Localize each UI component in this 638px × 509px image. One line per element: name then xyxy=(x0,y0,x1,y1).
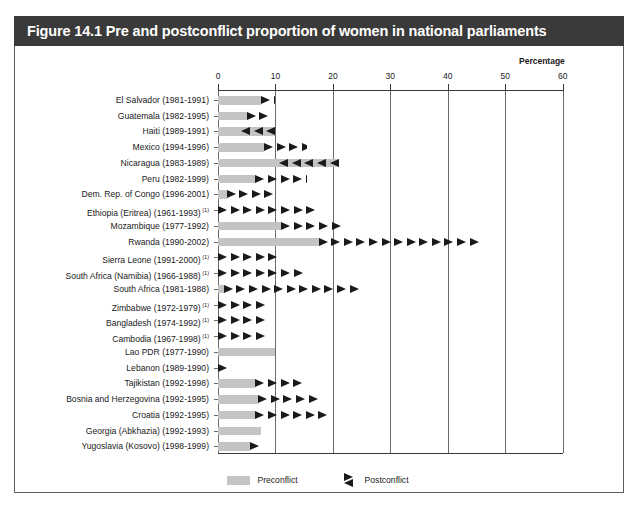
arrow-right-icon xyxy=(243,332,252,340)
arrow-right-icon xyxy=(382,238,391,246)
arrow-right-icon xyxy=(306,222,315,230)
preconflict-bar xyxy=(218,348,275,357)
arrow-right-icon xyxy=(283,395,292,403)
arrow-right-icon xyxy=(268,411,277,419)
arrow-right-icon xyxy=(356,238,365,246)
arrow-right-icon xyxy=(262,285,271,293)
arrow-right-icon xyxy=(407,238,416,246)
arrow-left-icon xyxy=(344,479,353,487)
row-label: Yugoslavia (Kosovo) (1998-1999) xyxy=(81,437,209,456)
arrow-right-icon xyxy=(306,206,315,214)
arrow-right-icon xyxy=(218,332,227,340)
footnote-marker: (1) xyxy=(201,270,209,276)
arrow-right-icon xyxy=(470,238,479,246)
arrow-right-icon xyxy=(312,285,321,293)
footnote-marker: (1) xyxy=(201,254,209,260)
arrow-right-icon xyxy=(457,238,466,246)
axis-unit-label: Percentage xyxy=(519,56,565,66)
arrow-right-icon xyxy=(337,285,346,293)
x-axis-tick xyxy=(505,84,506,91)
arrow-left-icon xyxy=(304,159,313,167)
postconflict-arrow-series xyxy=(264,142,307,152)
legend-item-postconflict: Postconflict xyxy=(344,473,409,487)
arrow-right-icon xyxy=(250,442,259,450)
arrow-right-icon xyxy=(318,411,327,419)
arrow-right-icon xyxy=(344,238,353,246)
arrow-right-icon xyxy=(239,190,248,198)
footnote-marker: (1) xyxy=(201,317,209,323)
x-axis-tick-label: 30 xyxy=(386,71,395,81)
arrow-right-icon xyxy=(249,285,258,293)
arrow-right-icon xyxy=(274,96,276,104)
arrow-right-icon xyxy=(224,285,233,293)
arrow-right-icon xyxy=(281,175,290,183)
arrow-right-icon xyxy=(231,332,240,340)
chart-row: Yugoslavia (Kosovo) (1998-1999) xyxy=(0,437,638,456)
arrow-right-icon xyxy=(255,379,264,387)
legend-label-preconflict: Preconflict xyxy=(257,475,297,485)
x-axis-tick-label: 50 xyxy=(501,71,510,81)
arrow-right-icon xyxy=(236,285,245,293)
postconflict-arrow-series xyxy=(218,331,275,341)
preconflict-bar xyxy=(218,175,255,184)
preconflict-bar xyxy=(218,112,247,121)
arrow-right-icon xyxy=(281,379,290,387)
postconflict-arrow-series xyxy=(261,95,275,105)
arrow-right-icon xyxy=(293,175,302,183)
preconflict-bar xyxy=(218,222,281,231)
arrow-right-icon xyxy=(309,395,318,403)
postconflict-arrow-series xyxy=(247,111,273,121)
arrow-right-icon xyxy=(277,143,286,151)
arrow-right-icon xyxy=(274,285,283,293)
arrow-right-icon xyxy=(294,222,303,230)
preconflict-bar xyxy=(218,96,261,105)
arrow-left-icon xyxy=(330,159,339,167)
postconflict-arrow-series xyxy=(218,252,293,262)
preconflict-bar xyxy=(218,238,319,247)
arrow-right-icon xyxy=(255,175,264,183)
arrow-right-icon xyxy=(394,238,403,246)
arrow-right-icon xyxy=(306,175,307,183)
arrow-right-icon xyxy=(332,222,341,230)
arrow-right-icon xyxy=(247,112,256,120)
postconflict-arrow-series xyxy=(250,441,261,451)
arrow-left-icon xyxy=(279,159,288,167)
x-axis-tick-label: 20 xyxy=(328,71,337,81)
arrow-right-icon xyxy=(243,206,252,214)
preconflict-swatch-icon xyxy=(227,476,250,485)
x-axis-tick-label: 60 xyxy=(558,71,567,81)
arrow-right-icon xyxy=(256,332,265,340)
x-axis-tick xyxy=(218,84,219,91)
arrow-right-icon xyxy=(261,96,270,104)
arrow-right-icon xyxy=(218,301,227,309)
arrow-right-icon xyxy=(231,316,240,324)
postconflict-arrow-series xyxy=(218,205,344,215)
arrow-right-icon xyxy=(218,253,227,261)
postconflict-arrow-series xyxy=(255,174,307,184)
arrow-right-icon xyxy=(293,379,302,387)
x-axis-tick xyxy=(390,84,391,91)
x-axis-tick xyxy=(448,84,449,91)
postconflict-arrow-series xyxy=(218,268,321,278)
arrow-right-icon xyxy=(243,301,252,309)
arrow-right-icon xyxy=(289,143,298,151)
preconflict-bar xyxy=(218,427,261,436)
arrow-right-icon xyxy=(258,395,267,403)
arrow-right-icon xyxy=(218,206,227,214)
preconflict-bar xyxy=(218,190,227,199)
preconflict-bar xyxy=(218,143,264,152)
arrow-right-icon xyxy=(268,206,277,214)
legend-label-postconflict: Postconflict xyxy=(365,475,409,485)
arrow-right-icon xyxy=(350,285,359,293)
arrow-right-icon xyxy=(243,253,252,261)
arrow-right-icon xyxy=(319,238,328,246)
arrow-right-icon xyxy=(281,411,290,419)
arrow-left-icon xyxy=(241,127,250,135)
arrow-right-icon xyxy=(444,238,453,246)
arrow-right-icon xyxy=(243,316,252,324)
postconflict-arrow-series xyxy=(255,378,310,388)
arrow-right-icon xyxy=(259,112,268,120)
arrow-right-icon xyxy=(296,395,305,403)
arrow-right-icon xyxy=(231,253,240,261)
arrow-right-icon xyxy=(264,190,273,198)
